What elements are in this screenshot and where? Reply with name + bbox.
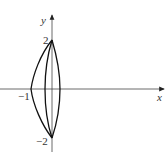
diagram-canvas: y x 2 −2 −1 bbox=[0, 0, 168, 154]
x-axis-label: x bbox=[156, 91, 162, 103]
tick-label-x-left: −1 bbox=[18, 90, 30, 102]
tick-label-y-top: 2 bbox=[43, 34, 49, 46]
y-axis-label: y bbox=[40, 14, 46, 26]
tick-label-y-bottom: −2 bbox=[36, 135, 48, 147]
